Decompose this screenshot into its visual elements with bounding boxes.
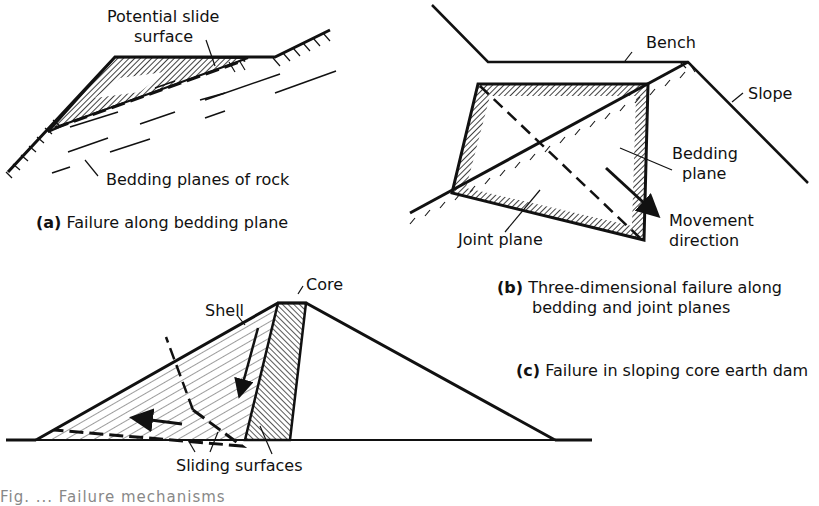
label-sliding-surfaces: Sliding surfaces [176, 456, 303, 475]
caption-panel-a: (a) Failure along bedding plane [36, 213, 288, 232]
label-bedding-plane-line1: Bedding [672, 144, 738, 163]
label-bedding-plane-line2: plane [682, 164, 726, 183]
panel-c-drawing [6, 286, 592, 454]
label-slope: Slope [748, 84, 792, 103]
label-movement-line2: direction [669, 231, 739, 250]
label-movement-line1: Movement [669, 211, 754, 230]
caption-panel-c: (c) Failure in sloping core earth dam [516, 361, 808, 380]
label-bedding-planes-of-rock: Bedding planes of rock [106, 170, 289, 189]
caption-panel-a-text: Failure along bedding plane [67, 213, 289, 232]
panel-a-drawing [6, 30, 336, 178]
caption-panel-c-letter: (c) [516, 361, 540, 380]
label-core: Core [306, 275, 343, 294]
label-potential-slide-surface-line1: Potential slide [107, 7, 219, 26]
caption-panel-b-line1: (b) Three-dimensional failure along [497, 278, 782, 297]
caption-panel-b-text1: Three-dimensional failure along [528, 278, 782, 297]
label-shell: Shell [205, 301, 244, 320]
label-potential-slide-surface-line2: surface [134, 27, 193, 46]
caption-panel-b-line2: bedding and joint planes [532, 298, 730, 317]
label-bench: Bench [646, 33, 696, 52]
figure-caption-partial: Fig. ... Failure mechanisms [0, 488, 226, 506]
label-joint-plane: Joint plane [458, 230, 543, 249]
caption-panel-c-text: Failure in sloping core earth dam [545, 361, 808, 380]
caption-panel-a-letter: (a) [36, 213, 61, 232]
panel-b-drawing [410, 5, 808, 240]
caption-panel-b-letter: (b) [497, 278, 523, 297]
